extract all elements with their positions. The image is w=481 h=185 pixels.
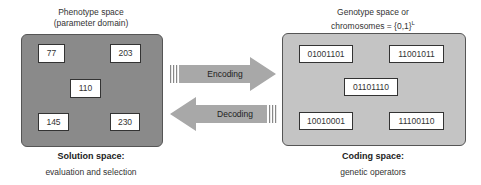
phenotype-value: 110 (70, 79, 101, 98)
coding-space-label: Coding space: (282, 151, 464, 161)
phenotype-title-line2: (parameter domain) (21, 18, 161, 29)
genotype-title-superscript: L (412, 20, 415, 26)
chromosome-value: 11001011 (389, 45, 444, 63)
phenotype-title: Phenotype space (parameter domain) (21, 7, 161, 29)
phenotype-value: 203 (110, 44, 141, 63)
phenotype-value: 77 (38, 44, 65, 63)
encoding-label: Encoding (190, 69, 260, 79)
chromosome-value: 01101110 (344, 78, 398, 96)
solution-space-description: evaluation and selection (21, 167, 161, 177)
chromosome-value: 11100110 (389, 112, 444, 130)
genotype-title-line2: chromosomes = {0,1}L (282, 18, 464, 32)
genotype-title-line1: Genotype space or (282, 7, 464, 18)
genotype-title-line2-text: chromosomes = {0,1} (331, 21, 412, 31)
chromosome-value: 01001101 (299, 45, 353, 63)
phenotype-value: 230 (110, 113, 140, 131)
phenotype-title-line1: Phenotype space (21, 7, 161, 18)
chromosome-value: 10010001 (299, 112, 353, 130)
coding-space-description: genetic operators (282, 167, 464, 177)
decoding-label: Decoding (200, 109, 270, 119)
genotype-space-box: 01001101 11001011 01101110 10010001 1110… (282, 33, 466, 146)
phenotype-space-box: 77 203 110 145 230 (21, 34, 163, 147)
solution-space-label: Solution space: (21, 151, 161, 161)
genotype-title: Genotype space or chromosomes = {0,1}L (282, 7, 464, 32)
phenotype-value: 145 (38, 113, 69, 131)
